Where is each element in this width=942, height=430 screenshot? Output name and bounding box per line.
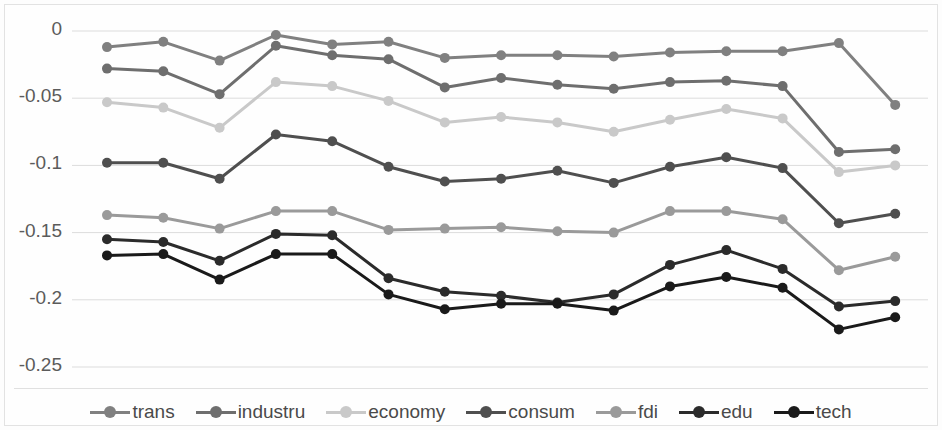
data-point-edu-7: [440, 287, 450, 297]
legend-item-trans[interactable]: trans: [90, 401, 174, 423]
data-point-tech-13: [778, 283, 788, 293]
data-point-industru-7: [440, 82, 450, 92]
data-point-tech-12: [721, 272, 731, 282]
legend-item-edu[interactable]: edu: [679, 401, 753, 423]
legend-item-fdi[interactable]: fdi: [596, 401, 658, 423]
data-point-economy-5: [327, 81, 337, 91]
data-point-consum-15: [890, 209, 900, 219]
data-point-trans-14: [834, 38, 844, 48]
data-point-fdi-4: [271, 206, 281, 216]
data-point-consum-3: [215, 174, 225, 184]
data-point-economy-8: [496, 112, 506, 122]
data-point-industru-5: [327, 50, 337, 60]
data-point-economy-15: [890, 160, 900, 170]
plot-area: [0, 0, 942, 430]
data-point-industru-15: [890, 144, 900, 154]
data-point-economy-10: [609, 127, 619, 137]
line-chart: 0-0.05-0.1-0.15-0.2-0.25 transindustruec…: [0, 0, 942, 430]
data-point-tech-6: [384, 289, 394, 299]
legend-item-tech[interactable]: tech: [774, 401, 852, 423]
data-point-edu-15: [890, 296, 900, 306]
data-point-consum-4: [271, 130, 281, 140]
data-point-tech-2: [158, 249, 168, 259]
legend-swatch-consum-icon: [466, 405, 506, 419]
legend-swatch-tech-icon: [774, 405, 814, 419]
data-point-fdi-9: [552, 226, 562, 236]
y-tick-label-3: -0.15: [0, 220, 62, 242]
data-point-edu-14: [834, 302, 844, 312]
data-point-trans-8: [496, 50, 506, 60]
legend-marker-icon: [693, 406, 705, 418]
legend-swatch-fdi-icon: [596, 405, 636, 419]
data-point-industru-1: [102, 64, 112, 74]
data-point-industru-6: [384, 54, 394, 64]
legend-label: consum: [508, 401, 575, 423]
data-point-economy-14: [834, 167, 844, 177]
legend-swatch-edu-icon: [679, 405, 719, 419]
data-point-tech-7: [440, 304, 450, 314]
legend-item-economy[interactable]: economy: [326, 401, 445, 423]
data-point-economy-6: [384, 96, 394, 106]
legend-item-consum[interactable]: consum: [466, 401, 575, 423]
data-point-tech-1: [102, 250, 112, 260]
data-point-edu-3: [215, 256, 225, 266]
data-point-trans-10: [609, 52, 619, 62]
data-point-fdi-15: [890, 252, 900, 262]
y-tick-label-2: -0.1: [0, 152, 62, 174]
y-tick-label-4: -0.2: [0, 287, 62, 309]
data-point-fdi-7: [440, 224, 450, 234]
data-point-fdi-12: [721, 206, 731, 216]
plot-svg: [0, 0, 942, 430]
data-point-industru-11: [665, 77, 675, 87]
data-point-economy-11: [665, 115, 675, 125]
data-point-consum-7: [440, 177, 450, 187]
legend-marker-icon: [610, 406, 622, 418]
data-point-consum-10: [609, 178, 619, 188]
legend-label: industru: [238, 401, 306, 423]
data-point-industru-14: [834, 147, 844, 157]
data-point-tech-5: [327, 249, 337, 259]
data-point-consum-11: [665, 162, 675, 172]
series-consum: [102, 130, 900, 229]
data-point-fdi-11: [665, 206, 675, 216]
series-line-economy: [107, 82, 895, 172]
legend-label: tech: [816, 401, 852, 423]
data-point-consum-2: [158, 158, 168, 168]
data-point-trans-5: [327, 39, 337, 49]
legend-marker-icon: [104, 406, 116, 418]
data-point-tech-9: [552, 299, 562, 309]
data-point-tech-15: [890, 312, 900, 322]
data-point-edu-2: [158, 237, 168, 247]
data-point-economy-9: [552, 117, 562, 127]
data-point-industru-4: [271, 41, 281, 51]
data-point-economy-2: [158, 103, 168, 113]
data-point-edu-13: [778, 264, 788, 274]
data-point-economy-12: [721, 104, 731, 114]
data-point-fdi-8: [496, 222, 506, 232]
data-point-consum-6: [384, 162, 394, 172]
data-point-economy-4: [271, 77, 281, 87]
data-point-trans-3: [215, 56, 225, 66]
data-point-industru-9: [552, 80, 562, 90]
legend-swatch-economy-icon: [326, 405, 366, 419]
data-point-trans-7: [440, 53, 450, 63]
series-line-industru: [107, 46, 895, 152]
legend-swatch-trans-icon: [90, 405, 130, 419]
data-point-fdi-13: [778, 214, 788, 224]
data-point-edu-12: [721, 245, 731, 255]
data-point-consum-13: [778, 163, 788, 173]
data-point-fdi-14: [834, 265, 844, 275]
data-point-edu-5: [327, 230, 337, 240]
data-point-economy-1: [102, 97, 112, 107]
data-point-edu-10: [609, 289, 619, 299]
legend-label: edu: [721, 401, 753, 423]
data-point-trans-1: [102, 42, 112, 52]
legend-marker-icon: [210, 406, 222, 418]
data-point-tech-11: [665, 281, 675, 291]
legend-marker-icon: [788, 406, 800, 418]
data-point-consum-12: [721, 152, 731, 162]
legend-item-industru[interactable]: industru: [196, 401, 306, 423]
legend-marker-icon: [480, 406, 492, 418]
data-point-consum-1: [102, 158, 112, 168]
data-point-industru-13: [778, 81, 788, 91]
